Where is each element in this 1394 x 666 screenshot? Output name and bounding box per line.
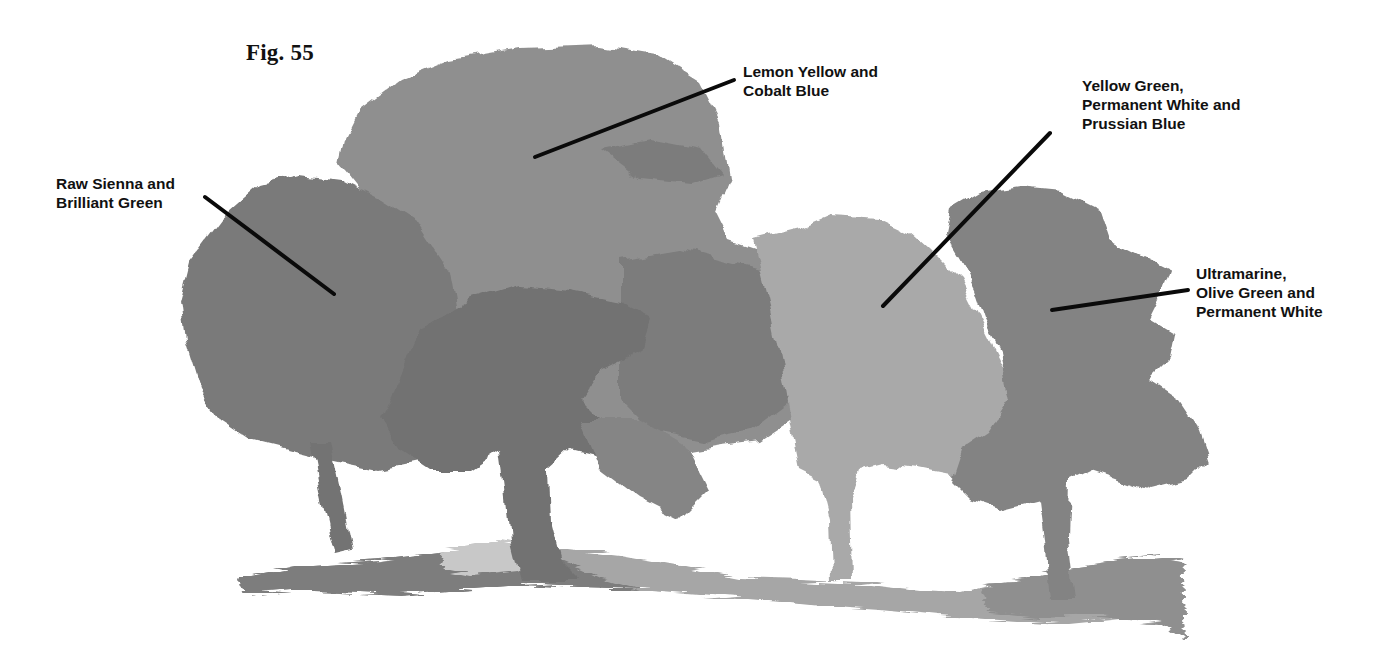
label-ultramarine: Ultramarine, Olive Green and Permanent W… [1196,264,1323,321]
label-raw-sienna: Raw Sienna and Brilliant Green [56,174,175,212]
label-lemon-yellow: Lemon Yellow and Cobalt Blue [743,62,878,100]
label-yellow-green: Yellow Green, Permanent White and Prussi… [1082,76,1240,133]
ground-strip [238,540,1186,640]
figure-number: Fig. 55 [246,40,314,66]
figure-55: Fig. 55 Raw Sienna and Brilliant Green L… [0,0,1394,666]
